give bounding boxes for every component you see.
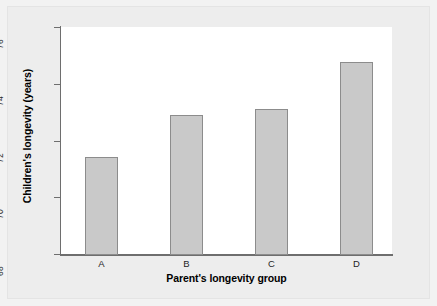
bar-d — [340, 62, 373, 255]
x-tick-label-a: A — [82, 258, 122, 269]
y-tick-label-74: 74 — [0, 84, 5, 118]
x-tick-label-c: C — [252, 258, 292, 269]
x-tick-label-d: D — [337, 258, 377, 269]
y-tick-label-70: 70 — [0, 197, 5, 231]
bar-a — [85, 157, 118, 255]
chart-figure: 76 74 72 70 68 A B C D Children's longev… — [0, 0, 437, 306]
y-tick-mark-72 — [54, 141, 61, 142]
x-tick-label-b: B — [167, 258, 207, 269]
y-tick-mark-70 — [54, 197, 61, 198]
y-axis-title: Children's longevity (years) — [21, 36, 33, 236]
y-tick-label-76: 76 — [0, 27, 5, 61]
y-tick-mark-74 — [54, 84, 61, 85]
y-tick-mark-68 — [54, 254, 61, 255]
y-tick-mark-76 — [54, 27, 61, 28]
y-tick-label-72: 72 — [0, 141, 5, 175]
bar-c — [255, 109, 288, 255]
y-tick-label-68: 68 — [0, 254, 5, 288]
x-axis-title: Parent's longevity group — [61, 272, 392, 284]
bar-b — [170, 115, 203, 255]
